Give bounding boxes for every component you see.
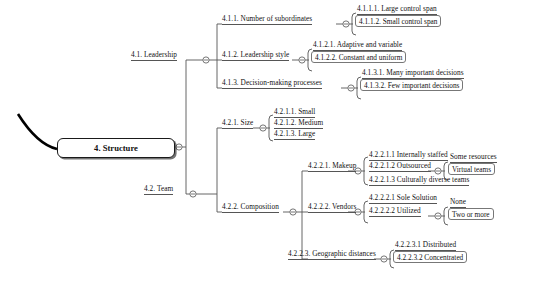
node-4-2-2-3-2[interactable]: 4.2.2.3.2 Concentrated — [393, 251, 467, 263]
node-4-2-2[interactable]: 4.2.2. Composition — [222, 202, 279, 213]
node-4-1-2-2[interactable]: 4.1.2.2. Constant and uniform — [311, 51, 406, 63]
root-node-label: 4. Structure — [94, 143, 138, 153]
node-4-2-1-2[interactable]: 4.2.1.2. Medium — [274, 118, 323, 129]
mind-map-canvas: 4. Structure 4.1. Leadership 4.1.1. Numb… — [0, 0, 533, 288]
node-4-1-1-2[interactable]: 4.1.1.2. Small control span — [355, 15, 441, 27]
node-4-2-2-3[interactable]: 4.2.2.3. Geographic distances — [288, 249, 376, 260]
node-virtual-teams[interactable]: Virtual teams — [448, 163, 495, 175]
node-4-1-2[interactable]: 4.1.2. Leadership style — [222, 50, 289, 61]
incoming-curve-icon — [18, 114, 57, 149]
node-none[interactable]: None — [450, 197, 466, 208]
node-4-2-1-3[interactable]: 4.2.1.3. Large — [274, 129, 315, 140]
node-two-or-more[interactable]: Two or more — [448, 208, 494, 220]
node-4-1[interactable]: 4.1. Leadership — [131, 50, 177, 61]
node-4-1-2-1[interactable]: 4.1.2.1. Adaptive and variable — [313, 40, 402, 51]
node-4-1-3-2[interactable]: 4.1.3.2. Few important decisions — [360, 79, 463, 91]
node-4-2-2-3-1[interactable]: 4.2.2.3.1 Distributed — [395, 240, 456, 251]
node-4-1-1[interactable]: 4.1.1. Number of subordinates — [222, 14, 312, 25]
node-4-2[interactable]: 4.2. Team — [144, 184, 173, 195]
node-4-2-2-2-2[interactable]: 4.2.2.2.2 Utilized — [369, 206, 421, 217]
node-4-2-2-2-1[interactable]: 4.2.2.2.1 Sole Solution — [369, 193, 437, 204]
node-some-resources[interactable]: Some resources — [450, 152, 497, 163]
node-4-1-1-1[interactable]: 4.1.1.1. Large control span — [357, 4, 437, 15]
node-4-2-2-1-2[interactable]: 4.2.2.1.2 Outsourced — [369, 161, 431, 172]
node-4-2-2-1-1[interactable]: 4.2.2.1.1 Internally staffed — [369, 150, 448, 161]
node-4-2-1-1[interactable]: 4.2.1.1. Small — [274, 107, 315, 118]
root-node-structure[interactable]: 4. Structure — [57, 138, 175, 158]
node-4-2-2-2[interactable]: 4.2.2.2. Vendors — [308, 202, 356, 213]
node-4-2-2-1-3[interactable]: 4.2.2.1.3 Culturally diverse teams — [369, 175, 469, 186]
node-4-1-3-1[interactable]: 4.1.3.1. Many important decisions — [362, 68, 464, 79]
node-4-1-3[interactable]: 4.1.3. Decision-making processes — [222, 78, 322, 89]
node-4-2-2-1[interactable]: 4.2.2.1. Makeup — [308, 161, 356, 172]
node-4-2-1[interactable]: 4.2.1. Size — [222, 118, 253, 129]
